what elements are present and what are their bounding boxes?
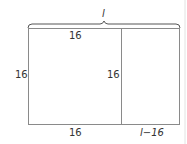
top-brace-label: l (102, 9, 105, 19)
left-height-label: 16 (15, 70, 28, 80)
inner-height-label: 16 (107, 70, 120, 80)
outer-rectangle (29, 29, 180, 125)
bottom-right-width-label: l−16 (140, 128, 164, 138)
top-width-label: 16 (69, 31, 82, 41)
top-brace (28, 21, 180, 28)
diagram-canvas (0, 0, 187, 144)
bottom-left-width-label: 16 (69, 128, 82, 138)
